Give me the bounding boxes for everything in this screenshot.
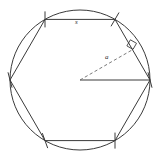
geometry-canvas xyxy=(0,0,160,160)
geometry-figure: s a xyxy=(0,0,160,160)
apothem-label: a xyxy=(105,54,109,61)
side-length-label: s xyxy=(75,19,78,26)
